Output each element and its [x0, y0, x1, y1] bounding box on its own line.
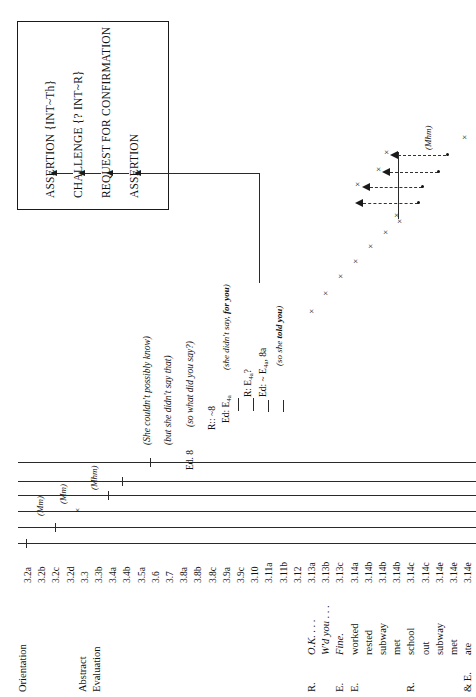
- turn-number: 3.13a: [308, 562, 318, 583]
- exchange-dot-1: [417, 201, 420, 204]
- structure-label-abstract: Abstract: [78, 656, 89, 692]
- x-marker-2: ×: [323, 289, 328, 298]
- x-marker-6: ×: [383, 228, 388, 237]
- track-line-1: [18, 462, 476, 463]
- exchange-axis: [398, 152, 399, 219]
- exchange-dash-1: [363, 203, 418, 204]
- turn-number: 3.2d: [67, 566, 77, 583]
- annotation-she-didnt-say-for-you: (she didn't say, for you): [222, 284, 231, 370]
- formula-ed-tilde-e4a-8a: Ed: ~ E4a, 8a: [259, 348, 270, 397]
- turn-number: 3.11a: [265, 563, 275, 584]
- transcript-utterance: rested: [364, 630, 375, 655]
- transcript-utterance: Fine.: [335, 633, 346, 655]
- transcript-utterance: out: [421, 642, 432, 655]
- turn-number: 3.2b: [38, 566, 48, 583]
- formula-ed-e4a: Ed: E4a: [222, 395, 233, 423]
- x-marker-exchange-2: ×: [355, 180, 360, 189]
- track-tick-2: [122, 477, 123, 486]
- turn-number: 3.13c: [336, 562, 346, 583]
- turn-number: 3.14e: [464, 562, 474, 583]
- turn-number: 3.3b: [95, 566, 105, 583]
- legend-arrow-line-2: [83, 173, 101, 174]
- annotation-so-what-did-you-say: (so what did you say?): [186, 341, 196, 427]
- legend-connector-arrowhead: [134, 170, 141, 176]
- transcript-utterance: ate: [463, 643, 474, 655]
- transcript-utterance: W'd you . . .: [321, 605, 332, 655]
- legend-connector-vertical: [259, 173, 260, 283]
- transcript-utterance: school: [406, 628, 417, 655]
- track-tick-5: [26, 539, 27, 548]
- transcript-utterance: met: [392, 639, 403, 655]
- x-marker-exchange-bottom: ×: [394, 211, 399, 220]
- transcript-speaker: R.: [406, 682, 417, 692]
- formula-stem-4: [283, 400, 284, 412]
- turn-number: 3.8c: [209, 567, 219, 583]
- turn-number: 3.4b: [123, 566, 133, 583]
- formula-ed-8: Ed. 8: [186, 450, 196, 470]
- x-marker-exchange-4: ×: [384, 148, 389, 157]
- backchannel-mhm-2: (Mhm): [424, 126, 433, 151]
- backchannel-mm-1: (Mm): [36, 496, 45, 516]
- turn-number: 3.8a: [180, 567, 190, 583]
- transcript-speaker: E.: [335, 683, 346, 692]
- transcript-utterance: subway: [435, 623, 446, 655]
- formula-r-e4a-question: R: E4a?: [244, 369, 255, 397]
- transcript-speaker: & E.: [463, 672, 474, 692]
- turn-number: 3.9c: [237, 567, 247, 583]
- legend-arrow-head-3: [106, 170, 113, 176]
- x-marker-3: ×: [338, 272, 343, 281]
- transcript-speaker: R.: [307, 682, 318, 692]
- turn-number: 3.3: [81, 571, 91, 583]
- track-tick-1: [150, 458, 151, 467]
- legend-box: [17, 21, 169, 210]
- track-tick-4: [55, 523, 56, 532]
- formula-stem-1: [238, 398, 239, 411]
- track-line-6: [18, 543, 476, 544]
- legend-connector-horizontal: [139, 173, 260, 174]
- turn-number: 3.14b: [365, 562, 375, 583]
- exchange-dot-2: [421, 185, 424, 188]
- turn-number: 3.8b: [194, 566, 204, 583]
- turn-number: 3.14e: [436, 562, 446, 583]
- transcript-utterance: met: [449, 639, 460, 655]
- x-marker-far-right: ×: [462, 133, 467, 142]
- legend-item-challenge: CHALLENGE {? INT~R}: [73, 70, 85, 198]
- turn-number: 3.10: [251, 566, 261, 583]
- exchange-dot-4: [446, 153, 449, 156]
- turn-number: 3.4a: [109, 567, 119, 583]
- backchannel-mhm-1: (Mhm): [90, 466, 99, 491]
- x-marker-exchange-3: ×: [376, 165, 381, 174]
- turn-number: 3.5a: [138, 567, 148, 583]
- backchannel-mm-2: (Mm): [59, 484, 68, 504]
- legend-arrow-head-1: [50, 170, 57, 176]
- exchange-arrowhead-1: [355, 199, 363, 207]
- exchange-dash-3: [390, 172, 438, 173]
- exchange-dash-4: [398, 155, 446, 156]
- track-line-3: [18, 495, 476, 496]
- track-line-4: [18, 511, 476, 512]
- track-line-2: [18, 481, 476, 482]
- exchange-arrowhead-4: [390, 151, 398, 159]
- turn-number: 3.14b: [393, 562, 403, 583]
- turn-number: 3.14c: [422, 562, 432, 583]
- formula-r-tilde-8: R:: ~8: [208, 406, 218, 430]
- exchange-arrowhead-2: [362, 183, 370, 191]
- annotation-so-she-told-you: (so she told you): [275, 306, 284, 366]
- track-tick-3: [108, 491, 109, 500]
- legend-arrow-line-3: [111, 173, 129, 174]
- transcript-utterance: O.K. . . .: [307, 619, 318, 655]
- formula-stem-3: [268, 400, 269, 412]
- x-marker-5: ×: [368, 242, 373, 251]
- legend-arrow-line-1: [55, 173, 73, 174]
- structure-label-orientation: Orientation: [18, 644, 29, 692]
- x-marker-track4: ×: [75, 506, 80, 515]
- track-line-5: [18, 527, 476, 528]
- turn-number: 3.6: [152, 571, 162, 583]
- turn-number: 3.14a: [351, 562, 361, 583]
- transcript-utterance: worked: [350, 624, 361, 656]
- turn-number: 3.2a: [24, 567, 34, 583]
- turn-number: 3.14b: [379, 562, 389, 583]
- transcript-speaker: E.: [350, 683, 361, 692]
- turn-number: 3.13b: [322, 562, 332, 583]
- figure-canvas: ASSERTION {INT~Th} CHALLENGE {? INT~R} R…: [0, 0, 476, 697]
